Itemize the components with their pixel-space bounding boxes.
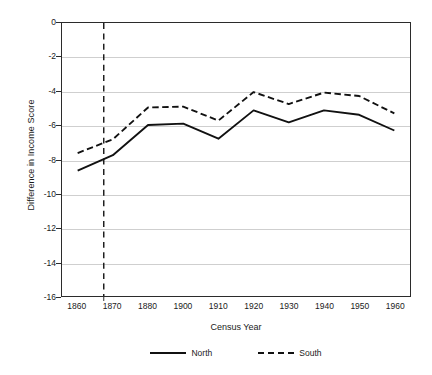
y-axis-tick-label: -16 — [30, 293, 56, 302]
x-axis-tick-label: 1960 — [373, 302, 417, 311]
legend-line-swatch-icon — [150, 352, 186, 354]
y-axis-tick-label: -6 — [30, 121, 56, 130]
y-axis-tick-label: -2 — [30, 52, 56, 61]
y-axis-tick-mark — [56, 297, 61, 298]
y-axis-tick-label: -4 — [30, 87, 56, 96]
y-axis-tick-label: -14 — [30, 258, 56, 267]
legend-item-north[interactable]: North — [150, 348, 212, 358]
y-axis-tick-label: 0 — [30, 18, 56, 27]
series-line-north — [78, 110, 395, 170]
series-canvas — [62, 23, 410, 296]
legend-item-label: South — [299, 348, 321, 358]
y-axis-tick-label: -10 — [30, 190, 56, 199]
plot-area — [61, 22, 411, 297]
y-axis-tick-label: -12 — [30, 224, 56, 233]
legend-item-label: North — [191, 348, 212, 358]
y-axis-tick-label: -8 — [30, 155, 56, 164]
chart-legend: NorthSouth — [61, 348, 411, 358]
legend-item-south[interactable]: South — [258, 348, 321, 358]
income-score-line-chart: Difference in Income Score 0-2-4-6-8-10-… — [0, 0, 432, 375]
x-axis-title: Census Year — [61, 322, 411, 332]
legend-line-swatch-icon — [258, 352, 294, 354]
